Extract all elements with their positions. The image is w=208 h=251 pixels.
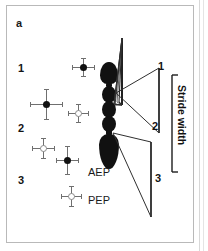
row-number-right-1: 1 [158,60,164,72]
leg-vector-3 [113,133,151,217]
page-edge-line [199,0,200,251]
row-number-right-2: 2 [152,120,158,132]
row-number-right-3: 3 [155,172,161,184]
leg-vector-diagram [6,5,194,243]
page-edge-line [203,0,204,251]
stride-width-label: Stride width [176,85,188,145]
figure-panel: a 1 2 3 [0,0,208,251]
